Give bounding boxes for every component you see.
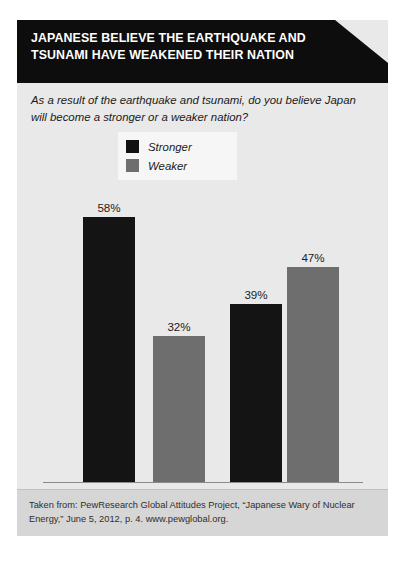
source-footer: Taken from: PewResearch Global Attitudes… [17, 489, 388, 536]
chart-question-line-1: As a result of the earthquake and tsunam… [31, 92, 376, 109]
bar-column-2012-stronger [230, 304, 282, 482]
legend-label-stronger: Stronger [148, 141, 192, 153]
source-citation: Taken from: PewResearch Global Attitudes… [29, 499, 374, 526]
header-banner: JAPANESE BELIEVE THE EARTHQUAKE AND TSUN… [17, 20, 388, 83]
bar-value-2011-weaker: 32% [153, 320, 205, 333]
chart-question: As a result of the earthquake and tsunam… [31, 92, 376, 125]
legend-swatch-icon-weaker [126, 159, 139, 172]
page-title-line-2: TSUNAMI HAVE WEAKENED THEIR NATION [31, 47, 321, 64]
source-citation-line-2: Energy,” June 5, 2012, p. 4. www.pewglob… [29, 513, 374, 527]
legend-item-stronger: Stronger [126, 137, 231, 156]
source-citation-line-1: Taken from: PewResearch Global Attitudes… [29, 499, 374, 513]
bar-column-2012-weaker [287, 267, 339, 482]
page-title: JAPANESE BELIEVE THE EARTHQUAKE AND TSUN… [31, 30, 321, 63]
page-title-line-1: JAPANESE BELIEVE THE EARTHQUAKE AND [31, 30, 321, 47]
chart-baseline-axis [43, 482, 363, 483]
bar-value-2011-stronger: 58% [83, 201, 135, 214]
bar-value-2012-weaker: 47% [287, 251, 339, 264]
legend-item-weaker: Weaker [126, 156, 231, 175]
chart-plot-area: 58% 32% 39% 47% [17, 195, 388, 485]
legend-swatch-icon-stronger [126, 140, 139, 153]
chart-question-line-2: will become a stronger or a weaker natio… [31, 109, 376, 126]
bar-value-2012-stronger: 39% [230, 288, 282, 301]
chart-legend: Stronger Weaker [118, 132, 237, 180]
bar-column-2011-stronger [83, 217, 135, 482]
legend-label-weaker: Weaker [148, 160, 187, 172]
bar-column-2011-weaker [153, 336, 205, 482]
infographic-card: JAPANESE BELIEVE THE EARTHQUAKE AND TSUN… [17, 20, 388, 536]
